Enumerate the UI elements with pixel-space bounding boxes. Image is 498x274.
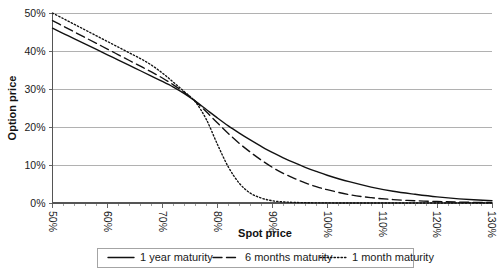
x-tick-label-70: 70% <box>157 211 169 232</box>
y-tick-label-50: 50% <box>24 7 45 19</box>
data-series-group <box>53 13 493 203</box>
y-tick-label-40: 40% <box>24 45 45 57</box>
chart-container: 0%10%20%30%40%50% 50%60%70%80%90%100%110… <box>0 0 498 274</box>
x-tick-label-80: 80% <box>212 211 224 232</box>
major-tickmarks-group <box>49 13 493 208</box>
x-tick-label-120: 120% <box>431 211 443 238</box>
x-tick-label-50: 50% <box>47 211 59 232</box>
x-tick-label-130: 130% <box>486 211 498 238</box>
chart-legend: 1 year maturity6 months maturity1 month … <box>97 248 434 267</box>
legend-label-2: 1 month maturity <box>352 251 434 263</box>
legend-label-0: 1 year maturity <box>140 251 213 263</box>
axis-lines-group <box>53 13 493 203</box>
y-tick-label-0: 0% <box>30 197 45 209</box>
gridlines-group <box>53 13 493 165</box>
option-price-chart: 0%10%20%30%40%50% 50%60%70%80%90%100%110… <box>0 0 498 274</box>
x-tick-label-100: 100% <box>322 211 334 238</box>
x-tick-label-60: 60% <box>102 211 114 232</box>
y-tick-label-20: 20% <box>24 121 45 133</box>
series-line-1-month-maturity <box>53 13 493 203</box>
y-tick-label-10: 10% <box>24 159 45 171</box>
x-axis-title: Spot price <box>238 227 292 239</box>
y-axis-tick-labels: 0%10%20%30%40%50% <box>24 7 45 209</box>
y-axis-title: Option price <box>6 76 18 141</box>
x-tick-label-110: 110% <box>377 211 389 237</box>
y-tick-label-30: 30% <box>24 83 45 95</box>
